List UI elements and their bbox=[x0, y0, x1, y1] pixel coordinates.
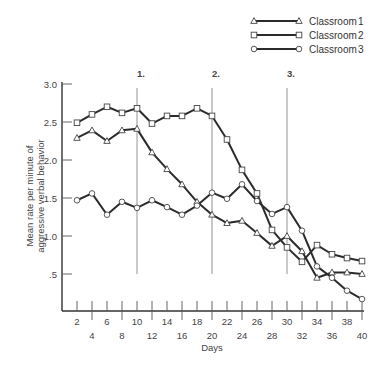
x-tick-label: 34 bbox=[312, 316, 323, 327]
x-tick-label: 22 bbox=[222, 316, 233, 327]
x-tick-label: 10 bbox=[132, 316, 143, 327]
circle-marker-icon bbox=[344, 288, 350, 294]
square-marker-icon bbox=[164, 113, 170, 119]
legend: Classroom1Classroom2Classroom3 bbox=[251, 16, 364, 55]
circle-marker-icon bbox=[179, 212, 185, 218]
square-marker-icon bbox=[89, 112, 95, 118]
square-marker-icon bbox=[179, 113, 185, 119]
phase-label: 2. bbox=[212, 68, 220, 79]
line-chart: Classroom1Classroom2Classroom3 1.2.3. 3.… bbox=[0, 0, 385, 367]
square-marker-icon bbox=[119, 110, 125, 116]
legend-label: Classroom bbox=[309, 30, 357, 41]
x-tick-label: 32 bbox=[297, 330, 308, 341]
square-marker-icon bbox=[251, 32, 257, 38]
series-line bbox=[77, 107, 362, 262]
x-axis-label: Days bbox=[201, 342, 223, 353]
square-marker-icon bbox=[344, 255, 350, 261]
circle-marker-icon bbox=[299, 228, 305, 234]
y-axis-label-line1: Mean rate per minute of bbox=[24, 145, 35, 246]
triangle-marker-icon bbox=[284, 233, 290, 239]
square-marker-icon bbox=[284, 245, 290, 251]
circle-marker-icon bbox=[329, 275, 335, 281]
circle-marker-icon bbox=[194, 203, 200, 209]
square-marker-icon bbox=[134, 106, 140, 112]
square-marker-icon bbox=[104, 104, 110, 110]
square-marker-icon bbox=[224, 137, 230, 143]
circle-marker-icon bbox=[164, 204, 170, 210]
square-marker-icon bbox=[74, 120, 80, 126]
legend-number: 1 bbox=[358, 16, 364, 27]
triangle-marker-icon bbox=[89, 127, 95, 133]
x-tick-label: 2 bbox=[74, 316, 79, 327]
circle-marker-icon bbox=[119, 199, 125, 205]
x-tick-label: 18 bbox=[192, 316, 203, 327]
x-tick-label: 30 bbox=[282, 316, 293, 327]
x-tick-label: 12 bbox=[147, 330, 158, 341]
x-tick-label: 8 bbox=[119, 330, 124, 341]
circle-marker-icon bbox=[254, 198, 260, 204]
square-marker-icon bbox=[149, 121, 155, 127]
square-marker-icon bbox=[314, 242, 320, 248]
y-tick-label: 2.5 bbox=[44, 117, 57, 128]
circle-marker-icon bbox=[251, 46, 257, 52]
y-axis-label-line2: aggressive verbal behavior bbox=[35, 139, 46, 253]
legend-item-1: Classroom1 bbox=[251, 16, 364, 27]
circle-marker-icon bbox=[104, 212, 110, 218]
legend-item-3: Classroom3 bbox=[251, 44, 364, 55]
square-marker-icon bbox=[209, 113, 215, 119]
x-tick-label: 24 bbox=[237, 330, 248, 341]
circle-marker-icon bbox=[269, 211, 275, 217]
x-tick-label: 6 bbox=[104, 316, 109, 327]
x-tick-label: 36 bbox=[327, 330, 338, 341]
figure-caption-cropped bbox=[0, 356, 385, 367]
series-classroom-2 bbox=[74, 104, 365, 265]
x-tick-label: 40 bbox=[357, 330, 368, 341]
y-tick-label: .5 bbox=[49, 269, 57, 280]
series-classroom-1 bbox=[74, 125, 365, 280]
phase-label: 3. bbox=[287, 68, 295, 79]
y-tick-label: 3.0 bbox=[44, 79, 57, 90]
circle-marker-icon bbox=[314, 264, 320, 270]
x-tick-label: 20 bbox=[207, 330, 218, 341]
series-group bbox=[74, 104, 365, 302]
circle-marker-icon bbox=[239, 182, 245, 188]
x-tick-label: 28 bbox=[267, 330, 278, 341]
circle-marker-icon bbox=[209, 190, 215, 196]
x-tick-label: 38 bbox=[342, 316, 353, 327]
circle-marker-icon bbox=[74, 197, 80, 203]
phase-label: 1. bbox=[137, 68, 145, 79]
legend-item-2: Classroom2 bbox=[251, 30, 364, 41]
square-marker-icon bbox=[194, 106, 200, 112]
series-classroom-3 bbox=[74, 182, 365, 302]
legend-label: Classroom bbox=[309, 16, 357, 27]
x-tick-label: 26 bbox=[252, 316, 263, 327]
square-marker-icon bbox=[359, 258, 365, 264]
circle-marker-icon bbox=[359, 296, 365, 302]
square-marker-icon bbox=[299, 259, 305, 265]
square-marker-icon bbox=[254, 191, 260, 197]
circle-marker-icon bbox=[89, 191, 95, 197]
x-tick-label: 4 bbox=[89, 330, 94, 341]
x-tick-label: 14 bbox=[162, 316, 173, 327]
square-marker-icon bbox=[329, 251, 335, 257]
x-tick-label: 16 bbox=[177, 330, 188, 341]
square-marker-icon bbox=[269, 227, 275, 233]
square-marker-icon bbox=[296, 32, 302, 38]
legend-number: 3 bbox=[358, 44, 364, 55]
circle-marker-icon bbox=[224, 196, 230, 202]
legend-number: 2 bbox=[358, 30, 364, 41]
circle-marker-icon bbox=[149, 197, 155, 203]
circle-marker-icon bbox=[296, 46, 302, 52]
square-marker-icon bbox=[239, 167, 245, 173]
circle-marker-icon bbox=[134, 205, 140, 211]
circle-marker-icon bbox=[284, 204, 290, 210]
legend-label: Classroom bbox=[309, 44, 357, 55]
